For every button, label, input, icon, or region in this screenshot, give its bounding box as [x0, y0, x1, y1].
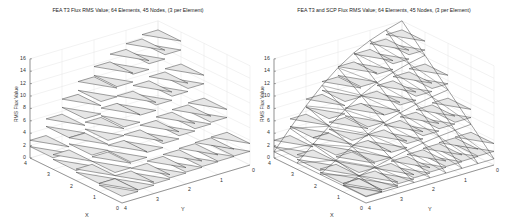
z-tick-label: 8	[23, 105, 26, 110]
y-tick-label: 2	[432, 187, 435, 192]
right-xlabel: X	[330, 212, 334, 218]
y-tick-label: 1	[220, 178, 223, 183]
z-tick-label: 6	[23, 118, 26, 123]
z-tick-label: 6	[267, 118, 270, 123]
x-tick-label: 1	[93, 195, 96, 200]
z-tick-label: 8	[267, 105, 270, 110]
z-tick-label: 16	[20, 56, 26, 61]
y-tick-label: 2	[188, 187, 191, 192]
x-tick-label: 4	[24, 161, 27, 166]
x-tick-label: 3	[47, 172, 50, 177]
z-tick-label: 14	[20, 68, 26, 73]
x-tick-label: 0	[360, 206, 363, 211]
left-plot-panel: FEA T3 Flux RMS Value; 64 Elements, 45 N…	[0, 0, 256, 222]
y-tick-label: 4	[368, 206, 371, 211]
z-tick-label: 12	[264, 81, 270, 86]
left-plot-canvas	[0, 0, 256, 222]
left-ylabel: Y	[181, 206, 185, 212]
x-tick-label: 2	[314, 184, 317, 189]
right-plot-panel: FEA T3 and SCP Flux RMS Value; 64 Elemen…	[256, 0, 512, 222]
x-tick-label: 3	[291, 172, 294, 177]
z-tick-label: 2	[23, 143, 26, 148]
x-tick-label: 0	[116, 206, 119, 211]
right-ylabel: Y	[428, 206, 432, 212]
y-tick-label: 0	[252, 168, 255, 173]
y-tick-label: 3	[400, 197, 403, 202]
x-tick-label: 2	[70, 184, 73, 189]
x-tick-label: 4	[268, 161, 271, 166]
left-zlabel: RMS Flux Value	[13, 86, 19, 122]
y-tick-label: 4	[124, 206, 127, 211]
y-tick-label: 0	[496, 168, 499, 173]
y-tick-label: 1	[464, 178, 467, 183]
z-tick-label: 10	[264, 93, 270, 98]
z-tick-label: 2	[267, 143, 270, 148]
x-tick-label: 1	[337, 195, 340, 200]
z-tick-label: 4	[23, 130, 26, 135]
z-tick-label: 16	[264, 56, 270, 61]
z-tick-label: 4	[267, 130, 270, 135]
right-plot-canvas	[256, 0, 512, 222]
z-tick-label: 14	[264, 68, 270, 73]
y-tick-label: 3	[156, 197, 159, 202]
z-tick-label: 12	[20, 81, 26, 86]
z-tick-label: 10	[20, 93, 26, 98]
left-xlabel: X	[85, 212, 89, 218]
